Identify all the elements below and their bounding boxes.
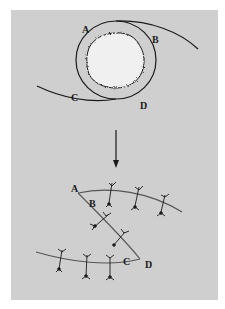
suture [90,212,111,230]
label-b-bottom: B [89,198,96,209]
label-d-bottom: D [145,259,152,270]
label-c-top: C [71,92,78,103]
suture [82,254,91,279]
eye-figure: A B C D [37,21,198,111]
suture [56,249,66,272]
diagram-canvas: A B C D [0,0,225,309]
label-a-bottom: A [71,183,79,194]
label-b-top: B [152,34,159,45]
z-closure-figure: A B C D [36,182,182,280]
suture [131,186,143,210]
suture [106,255,114,280]
label-a-top: A [82,24,90,35]
label-c-bottom: C [123,256,130,267]
label-d-top: D [140,100,147,111]
suture [106,182,116,207]
suture [157,194,169,216]
lesion-blob [87,33,144,88]
down-arrow-icon [113,130,119,168]
